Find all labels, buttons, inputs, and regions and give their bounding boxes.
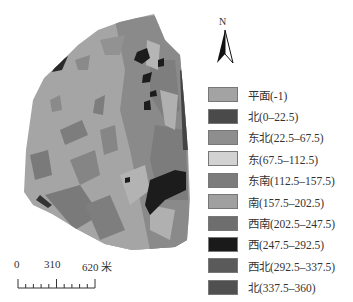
legend-swatch bbox=[208, 130, 238, 145]
scale-label-620: 620 米 bbox=[82, 258, 112, 274]
legend-item: 东南(112.5–157.5) bbox=[208, 170, 335, 191]
legend-swatch bbox=[208, 151, 238, 166]
legend-label: 北(0–22.5) bbox=[248, 108, 298, 124]
legend-swatch bbox=[208, 216, 238, 231]
legend-swatch bbox=[208, 280, 238, 295]
legend-item: 西北(292.5–337.5) bbox=[208, 255, 335, 276]
legend-swatch bbox=[208, 237, 238, 252]
legend-swatch bbox=[208, 109, 238, 124]
north-arrow-icon bbox=[213, 28, 237, 78]
legend-label: 东(67.5–112.5) bbox=[248, 151, 318, 167]
scale-labels: 0 310 620 米 bbox=[14, 258, 104, 274]
legend-item: 北(0–22.5) bbox=[208, 105, 335, 126]
legend-item: 东北(22.5–67.5) bbox=[208, 127, 335, 148]
scale-label-310: 310 bbox=[44, 258, 61, 270]
legend-label: 东北(22.5–67.5) bbox=[248, 129, 324, 145]
legend-item: 西(247.5–292.5) bbox=[208, 234, 335, 255]
legend: 平面(-1) 北(0–22.5) 东北(22.5–67.5) 东(67.5–11… bbox=[208, 84, 335, 298]
legend-item: 西南(202.5–247.5) bbox=[208, 212, 335, 233]
scale-bar: 0 310 620 米 bbox=[14, 258, 104, 290]
legend-swatch bbox=[208, 258, 238, 273]
legend-item: 东(67.5–112.5) bbox=[208, 148, 335, 169]
legend-label: 北(337.5–360) bbox=[248, 279, 316, 295]
legend-item: 北(337.5–360) bbox=[208, 277, 335, 298]
legend-label: 平面(-1) bbox=[248, 87, 287, 103]
north-label: N bbox=[219, 16, 226, 27]
legend-swatch bbox=[208, 194, 238, 209]
legend-swatch bbox=[208, 173, 238, 188]
legend-label: 西(247.5–292.5) bbox=[248, 236, 324, 252]
legend-label: 东南(112.5–157.5) bbox=[248, 172, 335, 188]
scale-label-0: 0 bbox=[14, 258, 20, 270]
legend-item: 平面(-1) bbox=[208, 84, 335, 105]
legend-swatch bbox=[208, 87, 238, 102]
legend-item: 南(157.5–202.5) bbox=[208, 191, 335, 212]
legend-label: 南(157.5–202.5) bbox=[248, 194, 324, 210]
scale-ruler bbox=[14, 276, 104, 290]
legend-label: 西北(292.5–337.5) bbox=[248, 258, 335, 274]
legend-label: 西南(202.5–247.5) bbox=[248, 215, 335, 231]
